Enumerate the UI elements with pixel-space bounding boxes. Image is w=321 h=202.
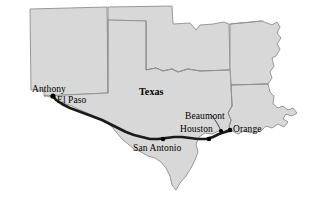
city-label-el-paso: El Paso xyxy=(57,96,86,106)
state-new-mexico xyxy=(30,7,108,96)
city-dot-beaumont xyxy=(219,129,223,133)
city-label-houston: Houston xyxy=(180,125,213,135)
texas-route-map: Texas Anthony El Paso San Antonio Housto… xyxy=(0,0,321,202)
map-canvas xyxy=(0,0,321,202)
city-label-san-antonio: San Antonio xyxy=(133,144,181,154)
city-dot-san-antonio xyxy=(161,137,166,142)
city-dot-orange xyxy=(228,128,233,133)
state-label-texas: Texas xyxy=(139,87,164,97)
city-label-beaumont: Beaumont xyxy=(185,112,225,122)
state-arkansas xyxy=(230,21,281,85)
city-label-anthony: Anthony xyxy=(32,85,66,95)
city-dot-houston xyxy=(207,137,212,142)
city-label-orange: Orange xyxy=(233,125,262,135)
